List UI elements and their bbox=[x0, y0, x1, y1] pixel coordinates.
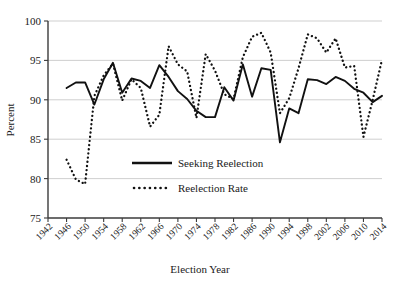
legend-label-reelection-rate: Reelection Rate bbox=[178, 182, 248, 194]
legend-label-seeking-reelection: Seeking Reelection bbox=[178, 157, 264, 169]
y-tick-label: 80 bbox=[30, 173, 42, 185]
x-axis-title: Election Year bbox=[170, 263, 230, 275]
reelection-line-chart: 7580859095100 19421946195019541958196219… bbox=[0, 0, 395, 282]
y-tick-label: 95 bbox=[30, 54, 42, 66]
y-axis-title: Percent bbox=[4, 104, 16, 137]
y-tick-label: 85 bbox=[30, 133, 42, 145]
y-tick-label: 75 bbox=[30, 212, 42, 224]
chart-container: 7580859095100 19421946195019541958196219… bbox=[0, 0, 395, 282]
y-tick-label: 100 bbox=[25, 15, 42, 27]
y-tick-label: 90 bbox=[30, 94, 42, 106]
